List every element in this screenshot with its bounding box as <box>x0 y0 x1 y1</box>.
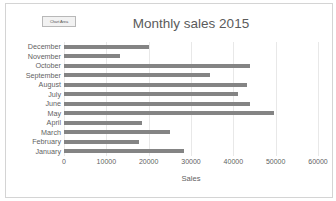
category-label: May <box>10 109 64 119</box>
category-label: October <box>10 61 64 71</box>
bar[interactable] <box>64 45 149 49</box>
category-label: September <box>10 71 64 81</box>
bar-row <box>64 80 318 90</box>
category-label: March <box>10 128 64 138</box>
bar-row <box>64 99 318 109</box>
category-label: January <box>10 147 64 157</box>
category-label: August <box>10 80 64 90</box>
bar-row <box>64 137 318 147</box>
bar-row <box>64 128 318 138</box>
category-label: June <box>10 99 64 109</box>
bar[interactable] <box>64 102 250 106</box>
value-tick-label: 60000 <box>308 158 327 165</box>
value-tick-label: 50000 <box>266 158 285 165</box>
bar-row <box>64 61 318 71</box>
bar-row <box>64 118 318 128</box>
category-axis: DecemberNovemberOctoberSeptemberAugustJu… <box>10 42 64 156</box>
category-label: April <box>10 118 64 128</box>
value-axis-title: Sales <box>64 174 318 183</box>
value-tick-label: 10000 <box>97 158 116 165</box>
bar-row <box>64 90 318 100</box>
value-axis: 0100002000030000400005000060000 <box>64 158 318 170</box>
bar-row <box>64 147 318 157</box>
bar-row <box>64 71 318 81</box>
bar[interactable] <box>64 83 247 87</box>
gridline <box>318 42 319 156</box>
chart-container: Chart Area Monthly sales 2015 DecemberNo… <box>5 3 333 198</box>
bar[interactable] <box>64 111 274 115</box>
value-tick-label: 30000 <box>181 158 200 165</box>
bar[interactable] <box>64 149 184 153</box>
bar-row <box>64 52 318 62</box>
plot-wrapper: DecemberNovemberOctoberSeptemberAugustJu… <box>6 4 334 199</box>
bar-row <box>64 42 318 52</box>
category-label: December <box>10 42 64 52</box>
bar[interactable] <box>64 121 142 125</box>
value-tick-label: 0 <box>62 158 66 165</box>
bar[interactable] <box>64 64 250 68</box>
value-tick-label: 40000 <box>224 158 243 165</box>
bar[interactable] <box>64 130 170 134</box>
bar[interactable] <box>64 73 210 77</box>
category-label: February <box>10 137 64 147</box>
bar[interactable] <box>64 140 139 144</box>
category-label: July <box>10 90 64 100</box>
bar[interactable] <box>64 92 238 96</box>
bar-series <box>64 42 318 156</box>
plot-area <box>64 42 318 156</box>
bar-row <box>64 109 318 119</box>
category-label: November <box>10 52 64 62</box>
value-tick-label: 20000 <box>139 158 158 165</box>
bar[interactable] <box>64 54 120 58</box>
